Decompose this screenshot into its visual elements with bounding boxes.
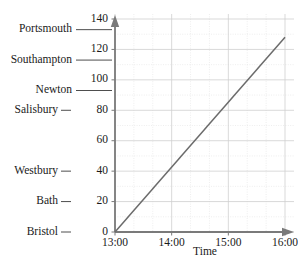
x-tick-label: 13:00 [102,236,128,248]
station-label: Southampton [11,53,73,66]
y-tick-label: 100 [91,72,109,84]
y-tick-label: 60 [97,133,109,145]
distance-time-chart: 020406080100120140 PortsmouthSouthampton… [0,0,298,265]
y-tick-label: 0 [102,225,108,237]
station-label: Newton [36,83,73,95]
x-tick-label: 15:00 [215,236,241,248]
x-tick-label: 16:00 [272,236,298,248]
x-axis-title: Time [193,245,217,257]
station-label: Portsmouth [19,22,72,34]
station-label: Salisbury [15,103,59,116]
chart-canvas: 020406080100120140 PortsmouthSouthampton… [0,0,298,265]
y-tick-label: 40 [97,164,109,176]
x-tick-label: 14:00 [159,236,185,248]
y-tick-label: 120 [91,42,109,54]
y-tick-label: 80 [97,103,109,115]
y-tick-label: 20 [97,194,109,206]
station-label: Bristol [27,225,58,237]
station-label: Westbury [14,164,58,177]
y-tick-label: 140 [91,12,109,24]
station-label: Bath [36,194,58,206]
